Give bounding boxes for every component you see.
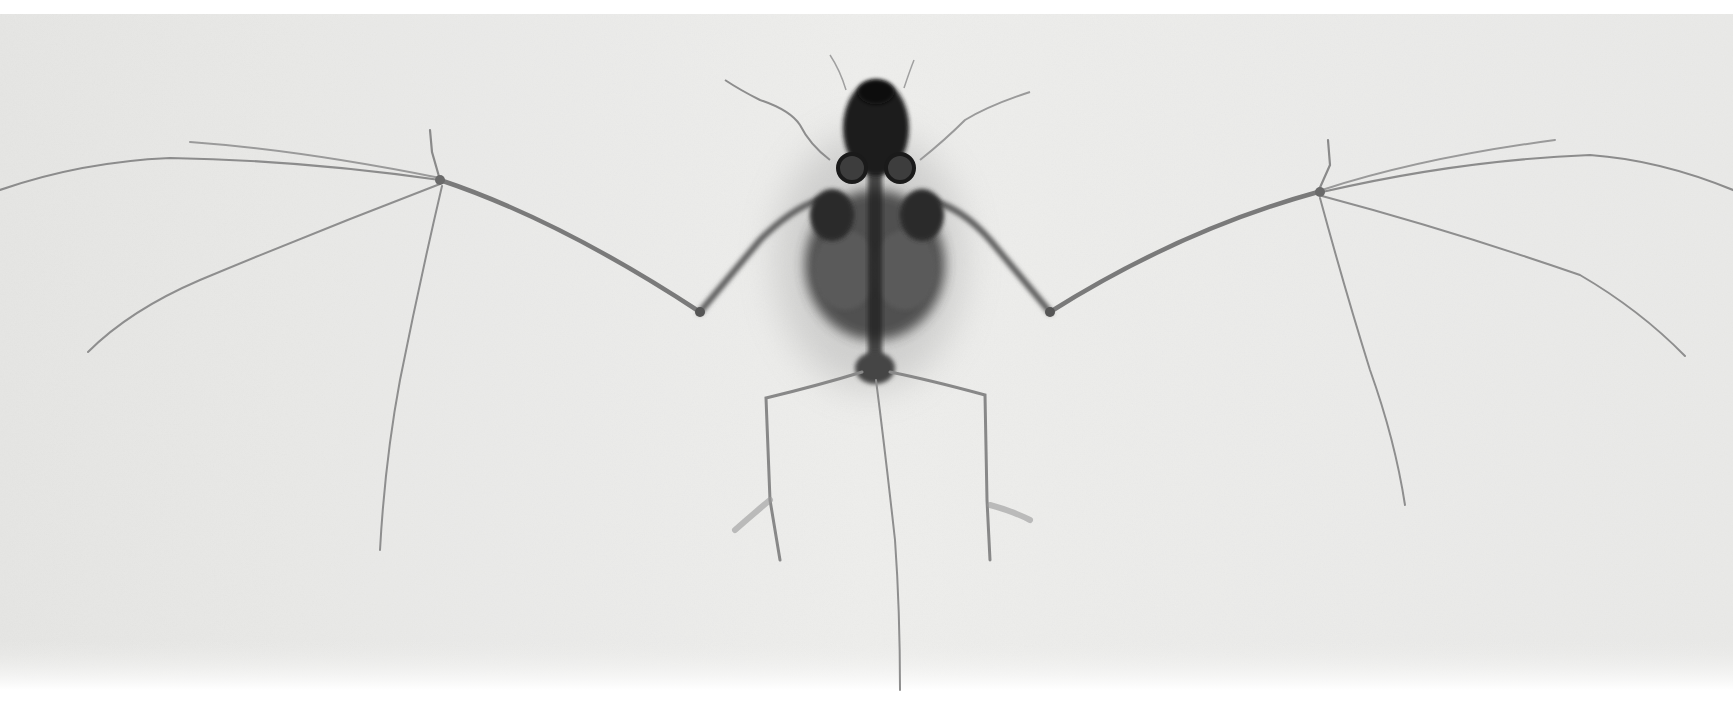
bat-skeleton-illustration <box>0 0 1733 716</box>
bat-xray-photo: Radiograph of a bat skeleton, wings spre… <box>0 0 1733 716</box>
